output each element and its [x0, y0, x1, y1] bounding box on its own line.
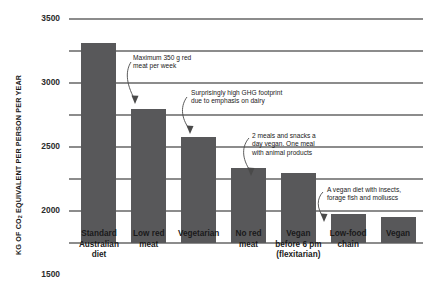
- y-axis-title-pre: KG OF CO: [14, 218, 23, 255]
- bar: [181, 137, 216, 243]
- annotation-arrow-vegetarian: [179, 95, 201, 138]
- y-axis-tick-label: 3500: [41, 13, 60, 23]
- y-axis-tick: 3000: [69, 50, 74, 52]
- x-axis-category-label: Vegan: [373, 229, 423, 240]
- x-axis-category-label: No red meat: [224, 229, 274, 250]
- bar: [81, 43, 116, 243]
- gridline: [74, 114, 423, 116]
- y-axis-tick: 2500: [69, 82, 74, 84]
- gridline: [74, 50, 423, 52]
- y-axis-tick: 1000: [69, 178, 74, 180]
- x-axis-category-label: Standard Australian diet: [74, 229, 124, 261]
- y-axis-tick: 2000: [69, 114, 74, 116]
- y-axis-tick: 500: [69, 210, 74, 212]
- x-axis-category-label: Vegetarian: [174, 229, 224, 240]
- x-axis-category-label: Low red meat: [124, 229, 174, 250]
- y-axis-tick-label: 2500: [41, 141, 60, 151]
- y-axis-title-post: EQUIVALENT PER PERSON PER YEAR: [14, 75, 23, 215]
- annotation-low-food-chain: A vegan diet with insects, forage fish a…: [327, 186, 429, 203]
- y-axis-title: KG OF CO2 EQUIVALENT PER PERSON PER YEAR: [0, 0, 16, 304]
- y-axis-title-text: KG OF CO2 EQUIVALENT PER PERSON PER YEAR: [14, 75, 23, 255]
- x-axis-category-label: Vegan before 6 pm (flexitarian): [273, 229, 323, 261]
- bar: [131, 109, 166, 243]
- y-axis-title-sub: 2: [17, 215, 23, 218]
- x-axis-category-label: Low-food chain: [323, 229, 373, 250]
- annotation-arrow-flexitarian: [240, 136, 262, 180]
- gridline: [74, 18, 423, 20]
- annotation-arrow-low-red-meat: [124, 60, 148, 108]
- annotation-vegetarian: Surprisingly high GHG footprint due to e…: [191, 89, 303, 106]
- y-axis-tick-label: 2000: [41, 205, 60, 215]
- y-axis-tick: 1500: [69, 146, 74, 148]
- y-axis-tick: 3500: [69, 18, 74, 20]
- y-axis-tick-label: 3000: [41, 77, 60, 87]
- annotation-flexitarian: 2 meals and snacks a day vegan. One meal…: [252, 132, 338, 157]
- y-axis-tick-label: 1500: [41, 269, 60, 279]
- annotation-arrow-low-food-chain: [314, 190, 336, 226]
- plot-area: 0500100015002000250030003500: [74, 19, 423, 243]
- bar-chart: KG OF CO2 EQUIVALENT PER PERSON PER YEAR…: [0, 0, 430, 304]
